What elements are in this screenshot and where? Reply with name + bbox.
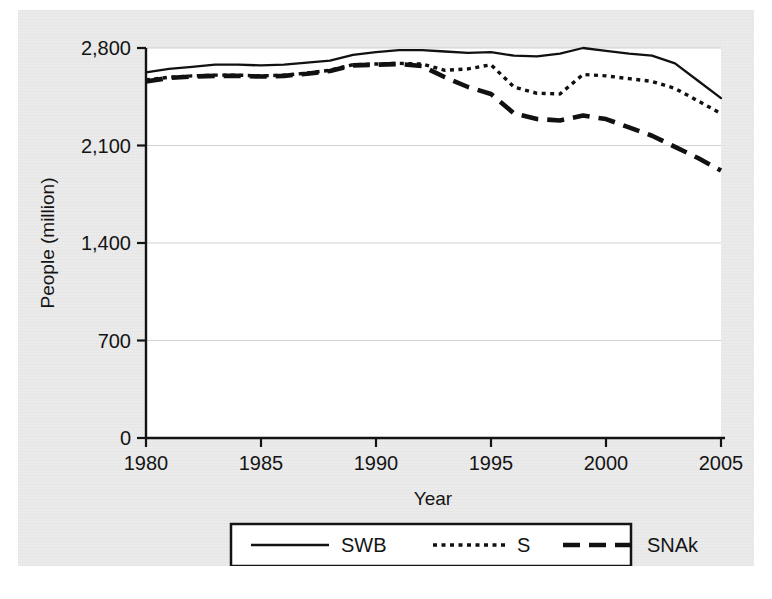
y-axis-ticks: 07001,4002,1002,800: [81, 37, 146, 449]
x-tick-label: 1990: [354, 452, 399, 474]
figure-region: 07001,4002,1002,800 19801985199019952000…: [18, 10, 754, 566]
legend-label-swb: SWB: [341, 534, 387, 556]
legend-label-snak: SNAk: [647, 534, 699, 556]
y-tick-label: 2,800: [81, 37, 131, 59]
y-axis-title: People (million): [37, 178, 58, 309]
x-tick-label: 1985: [239, 452, 284, 474]
line-chart: 07001,4002,1002,800 19801985199019952000…: [18, 10, 754, 566]
y-tick-label: 2,100: [81, 135, 131, 157]
y-tick-label: 1,400: [81, 232, 131, 254]
x-tick-label: 2000: [584, 452, 629, 474]
x-tick-label: 1980: [124, 452, 169, 474]
x-axis-ticks: 198019851990199520002005: [124, 438, 744, 474]
y-tick-label: 700: [98, 330, 131, 352]
legend-label-s: S: [517, 534, 530, 556]
y-tick-label: 0: [120, 427, 131, 449]
x-tick-label: 2005: [699, 452, 744, 474]
x-axis-title: Year: [414, 488, 453, 509]
legend: SWBSSNAk: [231, 524, 699, 566]
x-tick-label: 1995: [469, 452, 514, 474]
